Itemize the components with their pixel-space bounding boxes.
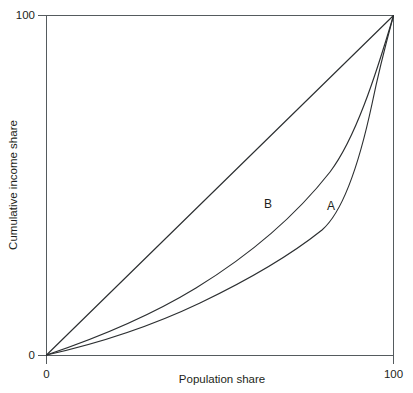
equality-line [47, 16, 394, 356]
y-axis-title: Cumulative income share [7, 120, 19, 250]
chart-canvas: 100 0 0 100 Population share Cumulative … [0, 0, 413, 393]
y-tick-label-max: 100 [16, 9, 35, 21]
x-tick-label-min: 0 [43, 368, 49, 380]
lorenz-curve-chart: 100 0 0 100 Population share Cumulative … [0, 0, 413, 393]
x-tick-label-max: 100 [384, 368, 403, 380]
y-tick-label-min: 0 [29, 349, 35, 361]
curve-a-label: A [327, 199, 335, 213]
curve-b-label: B [264, 197, 272, 211]
x-axis-title: Population share [179, 373, 265, 385]
